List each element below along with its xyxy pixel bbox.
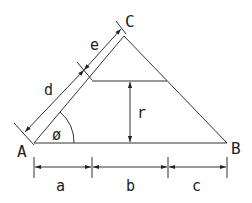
dimension-bottom — [34, 157, 227, 178]
vertex-label-b: B — [231, 139, 241, 158]
dimension-label-b: b — [126, 177, 135, 195]
dimension-d-e — [14, 21, 126, 145]
angle-label: ø — [52, 126, 61, 144]
triangle-diagram: A B C ø e d r a b c — [0, 0, 252, 203]
dimension-label-a: a — [56, 177, 65, 195]
vertex-label-c: C — [125, 12, 135, 31]
angle-arc — [60, 112, 74, 143]
dimension-label-r: r — [137, 104, 146, 122]
vertex-label-a: A — [17, 142, 27, 161]
dimension-label-c: c — [192, 177, 201, 195]
extension-tick-mid — [77, 62, 92, 80]
dimension-d-line — [25, 70, 84, 132]
dimension-label-d: d — [44, 81, 53, 99]
dimension-label-e: e — [90, 36, 99, 54]
side-cb — [124, 36, 227, 143]
